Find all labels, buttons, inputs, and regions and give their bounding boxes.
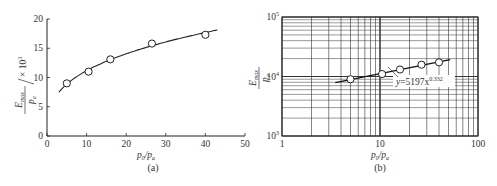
x-tick-label: 10 (82, 139, 92, 149)
data-point (63, 80, 70, 87)
chart-b: 110100103104105 Emax pa y=5197x0.332 p0/… (248, 11, 485, 174)
chart-a: 0102030405005101520 Emax pa × 103 p0/pa … (14, 14, 250, 174)
x-tick-label: 10 (375, 139, 385, 149)
x-tick-label: 30 (161, 139, 171, 149)
y-tick-label: 20 (34, 14, 44, 24)
data-point (85, 68, 92, 75)
x-tick-label: 20 (121, 139, 131, 149)
y-tick-label: 10 (34, 73, 44, 83)
x-tick-label: 100 (471, 139, 486, 149)
x-tick-label: 40 (201, 139, 211, 149)
y-tick-label: 103 (267, 130, 280, 141)
y-tick-label: 5 (38, 102, 43, 112)
chart-a-panel-label: (a) (147, 162, 158, 174)
chart-b-x-label: p0/pa (370, 150, 389, 161)
data-point (347, 76, 354, 83)
data-point (107, 56, 114, 63)
data-point (418, 61, 425, 68)
x-tick-label: 0 (45, 139, 50, 149)
chart-a-y-label: Emax pa × 103 (14, 57, 37, 114)
svg-text:pa: pa (26, 96, 37, 105)
chart-a-data-points (63, 31, 209, 87)
svg-text:pa: pa (260, 74, 271, 83)
figure-caption-faint (170, 176, 350, 184)
svg-text:× 103: × 103 (17, 57, 28, 77)
chart-a-fit-curve (59, 30, 217, 92)
svg-text:Emax: Emax (14, 92, 25, 109)
data-point (378, 70, 385, 77)
y-tick-label: 15 (34, 43, 44, 53)
y-tick-label: 105 (267, 11, 280, 22)
chart-b-panel-label: (b) (374, 162, 386, 174)
x-tick-label: 50 (240, 139, 250, 149)
svg-text:Emax: Emax (248, 70, 259, 87)
data-point (148, 40, 155, 47)
chart-b-y-label: Emax pa (248, 67, 271, 89)
y-tick-label: 0 (38, 131, 43, 141)
data-point (202, 31, 209, 38)
data-point (396, 66, 403, 73)
x-tick-label: 1 (280, 139, 285, 149)
figure: 0102030405005101520 Emax pa × 103 p0/pa … (0, 0, 497, 186)
data-point (435, 59, 442, 66)
chart-a-x-label: p0/pa (136, 150, 155, 161)
